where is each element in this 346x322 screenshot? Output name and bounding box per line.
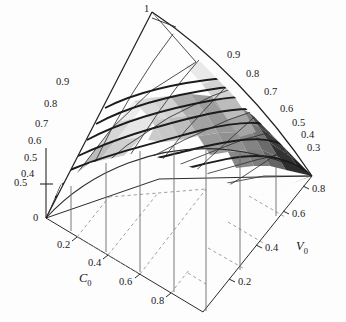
plot-canvas — [0, 0, 346, 322]
contour-label-left-3: 0.6 — [28, 136, 41, 147]
base-edge-back-right — [159, 176, 312, 179]
base-grid-dashed — [77, 189, 285, 293]
c0-axis-label: C0 — [79, 272, 92, 287]
origin-label: 0 — [33, 213, 38, 224]
contour-label-right-2: 0.7 — [264, 87, 277, 98]
surface-plot-figure: 1 0.9 0.8 0.7 0.6 0.5 0.4 0.9 0.8 0.7 0.… — [0, 0, 346, 322]
contour-label-right-0: 0.9 — [227, 50, 240, 61]
c0-axis-label-sub: 0 — [87, 278, 91, 288]
contour-label-right-6: 0.3 — [307, 143, 320, 154]
contour-label-right-3: 0.6 — [280, 104, 293, 115]
v0-tick-label-0: 0.2 — [238, 277, 251, 288]
v0-axis-label: V0 — [296, 240, 308, 255]
v0-tick-label-2: 0.6 — [292, 209, 305, 220]
contour-label-left-4: 0.5 — [24, 153, 37, 164]
z-tick-label-0.5: 0.5 — [14, 178, 27, 189]
contour-label-left-0: 0.9 — [56, 77, 69, 88]
v0-axis-label-sub: 0 — [304, 246, 308, 256]
surface-front-ridge — [46, 149, 312, 218]
contour-label-right-5: 0.4 — [301, 130, 314, 141]
c0-tick-label-3: 0.8 — [151, 296, 164, 307]
v0-axis-label-text: V — [296, 239, 304, 253]
c0-tick-label-2: 0.6 — [119, 277, 132, 288]
c0-tick-label-0: 0.2 — [57, 240, 70, 251]
v0-tick-label-3: 0.8 — [312, 184, 325, 195]
v0-tick-label-1: 0.4 — [265, 243, 278, 254]
contour-label-peak: 1 — [144, 4, 149, 15]
contour-label-left-2: 0.7 — [35, 119, 48, 130]
contour-label-left-1: 0.8 — [44, 99, 57, 110]
c0-tick-label-1: 0.4 — [88, 258, 101, 269]
contour-label-right-4: 0.5 — [292, 118, 305, 129]
contour-label-right-1: 0.8 — [246, 69, 259, 80]
